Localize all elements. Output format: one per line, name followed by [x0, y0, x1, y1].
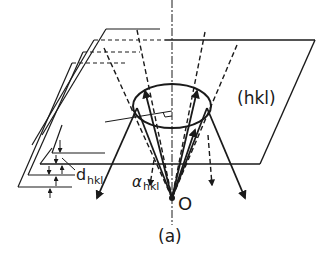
origin-label: O — [178, 193, 192, 214]
diffraction-cone-diagram: (hkl) d hkl α hkl O (a) — [0, 0, 329, 270]
dashed-rays — [104, 30, 237, 198]
lattice-planes — [18, 29, 315, 187]
origin-point — [169, 195, 175, 201]
spacing-label: d — [76, 165, 86, 184]
plane-label: (hkl) — [237, 88, 276, 108]
figure-caption: (a) — [158, 226, 182, 246]
solid-rays — [97, 91, 245, 198]
angle-label: α — [132, 173, 142, 191]
plane-dashed-edges — [72, 40, 165, 63]
spacing-subscript: hkl — [87, 174, 103, 187]
angle-subscript: hkl — [143, 180, 159, 193]
